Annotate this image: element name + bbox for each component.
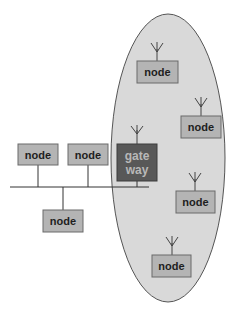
wired-node-1-label: node bbox=[25, 149, 51, 161]
wired-node-3[interactable]: node bbox=[43, 210, 83, 232]
network-diagram: node node node gate way node node node n… bbox=[0, 0, 234, 315]
gateway-label-line2: way bbox=[125, 163, 149, 177]
gateway-label-line1: gate bbox=[125, 149, 150, 163]
wireless-node-3-label: node bbox=[182, 196, 208, 208]
wired-node-1[interactable]: node bbox=[18, 144, 58, 165]
wireless-node-2-label: node bbox=[188, 121, 214, 133]
wired-node-3-label: node bbox=[50, 215, 76, 227]
wireless-node-1-label: node bbox=[144, 66, 170, 78]
wireless-node-4-label: node bbox=[158, 260, 184, 272]
wired-node-2-label: node bbox=[75, 149, 101, 161]
wired-node-2[interactable]: node bbox=[68, 144, 108, 165]
